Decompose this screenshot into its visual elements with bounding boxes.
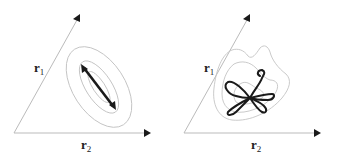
non-gaussian-contours — [214, 46, 290, 120]
r2-axis-label: r2 — [251, 138, 261, 154]
r2-axis-arrowhead-icon — [144, 129, 151, 137]
r2-axis-arrowhead-icon — [314, 129, 321, 137]
r1-axis-label: r1 — [34, 61, 44, 77]
middle-contour — [222, 62, 278, 112]
principal-direction-arrow — [84, 68, 113, 106]
r1-axis — [14, 20, 77, 133]
left-diagram — [0, 0, 170, 157]
sampling-trajectory — [226, 70, 275, 115]
trajectory-loop-left-upper — [226, 82, 250, 98]
r1-axis-label: r1 — [204, 61, 214, 77]
r2-axis-label: r2 — [81, 138, 91, 154]
left-panel: r1 r2 — [0, 0, 170, 157]
right-diagram — [170, 0, 340, 157]
right-panel: r1 r2 — [170, 0, 340, 157]
outer-contour — [214, 46, 290, 120]
